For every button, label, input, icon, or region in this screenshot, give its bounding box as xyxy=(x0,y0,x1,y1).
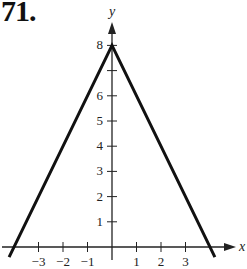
y-tick-label: 2 xyxy=(97,189,104,204)
y-tick-label: 3 xyxy=(97,163,104,178)
y-tick-label: 1 xyxy=(97,214,104,229)
y-axis-label: y xyxy=(107,4,116,19)
x-tick-label: −3 xyxy=(32,254,46,269)
y-tick-label: 8 xyxy=(97,37,104,52)
chart: xy−3−2−11231234568 xyxy=(0,0,247,269)
x-tick-label: 3 xyxy=(182,254,189,269)
y-axis-arrow-icon xyxy=(108,22,116,34)
y-tick-label: 4 xyxy=(97,138,104,153)
x-axis-label: x xyxy=(238,239,246,254)
x-tick-label: 1 xyxy=(133,254,140,269)
x-tick-label: 2 xyxy=(158,254,165,269)
x-tick-label: −1 xyxy=(81,254,95,269)
y-tick-label: 6 xyxy=(97,88,104,103)
x-tick-label: −2 xyxy=(56,254,70,269)
y-tick-label: 5 xyxy=(97,113,104,128)
x-axis-arrow-icon xyxy=(224,243,236,251)
